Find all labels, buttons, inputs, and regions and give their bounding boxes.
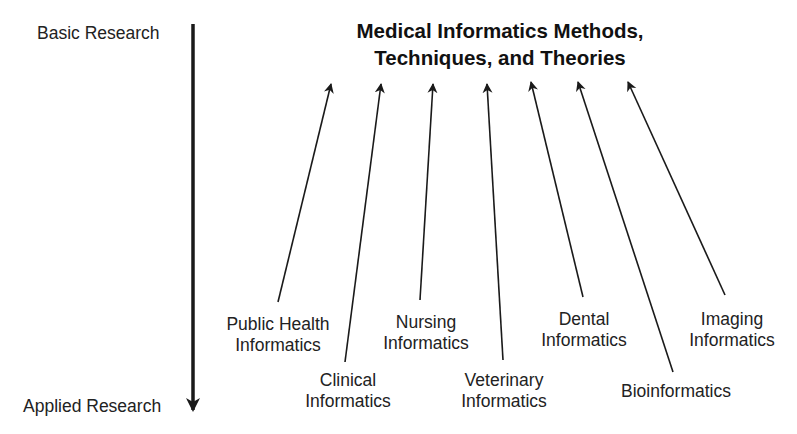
label-dental: Dental Informatics [528, 309, 640, 351]
label-veterinary: Veterinary Informatics [448, 370, 560, 412]
arrow-dental [531, 82, 583, 297]
label-line-1: Imaging [676, 309, 788, 330]
label-line-1: Dental [528, 309, 640, 330]
label-line-2: Informatics [528, 330, 640, 351]
arrow-public-health [278, 84, 331, 302]
diagram-title: Medical Informatics Methods, Techniques,… [300, 17, 700, 71]
label-line-2: Informatics [370, 333, 482, 354]
label-line-2: Informatics [676, 330, 788, 351]
label-clinical: Clinical Informatics [292, 370, 404, 412]
basic-research-label: Basic Research [37, 23, 160, 44]
label-line-1: Clinical [292, 370, 404, 391]
label-line-1: Nursing [370, 312, 482, 333]
arrow-nursing [420, 84, 433, 300]
arrow-veterinary [487, 84, 503, 360]
label-public-health: Public Health Informatics [210, 314, 346, 356]
label-nursing: Nursing Informatics [370, 312, 482, 354]
applied-research-label: Applied Research [23, 396, 161, 417]
label-line-1: Veterinary [448, 370, 560, 391]
label-imaging: Imaging Informatics [676, 309, 788, 351]
title-line-2: Techniques, and Theories [300, 44, 700, 71]
label-line-2: Informatics [292, 391, 404, 412]
label-line-1: Public Health [210, 314, 346, 335]
label-line-2: Informatics [448, 391, 560, 412]
label-bioinformatics: Bioinformatics [608, 381, 744, 402]
informatics-diagram: Basic Research Applied Research Medical … [0, 0, 797, 434]
title-line-1: Medical Informatics Methods, [300, 17, 700, 44]
label-line-1: Bioinformatics [608, 381, 744, 402]
arrow-imaging [628, 82, 725, 295]
label-line-2: Informatics [210, 335, 346, 356]
